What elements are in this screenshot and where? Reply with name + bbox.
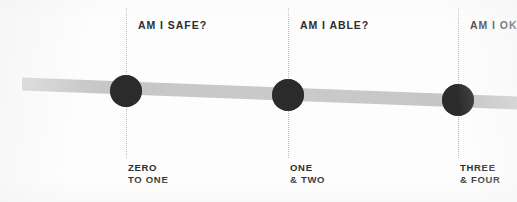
question-label-3: AM I OK <box>470 19 517 31</box>
paper-texture <box>0 0 517 202</box>
spectrum-band-svg <box>0 0 517 202</box>
stage-label-3-line2: & FOUR <box>460 174 501 186</box>
guide-line-3 <box>458 8 459 158</box>
question-label-2: AM I ABLE? <box>300 19 369 31</box>
marker-dot-3 <box>442 84 474 116</box>
stage-label-2-line1: ONE <box>290 162 313 173</box>
stage-label-3-line1: THREE <box>460 162 496 173</box>
figure-canvas: AM I SAFE? AM I ABLE? AM I OK ZERO TO ON… <box>0 0 517 202</box>
stage-label-1-line1: ZERO <box>128 162 157 173</box>
stage-label-1-line2: TO ONE <box>128 174 168 186</box>
stage-label-2: ONE & TWO <box>290 162 325 185</box>
stage-label-2-line2: & TWO <box>290 174 325 186</box>
question-label-1: AM I SAFE? <box>138 19 207 31</box>
marker-dot-1 <box>110 75 142 107</box>
stage-label-1: ZERO TO ONE <box>128 162 168 185</box>
spectrum-band <box>0 0 517 202</box>
marker-dot-2 <box>272 79 304 111</box>
stage-label-3: THREE & FOUR <box>460 162 501 185</box>
